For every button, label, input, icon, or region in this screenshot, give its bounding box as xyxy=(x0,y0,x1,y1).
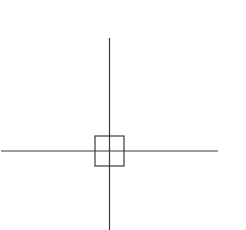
crosshair-diagram xyxy=(0,0,246,230)
